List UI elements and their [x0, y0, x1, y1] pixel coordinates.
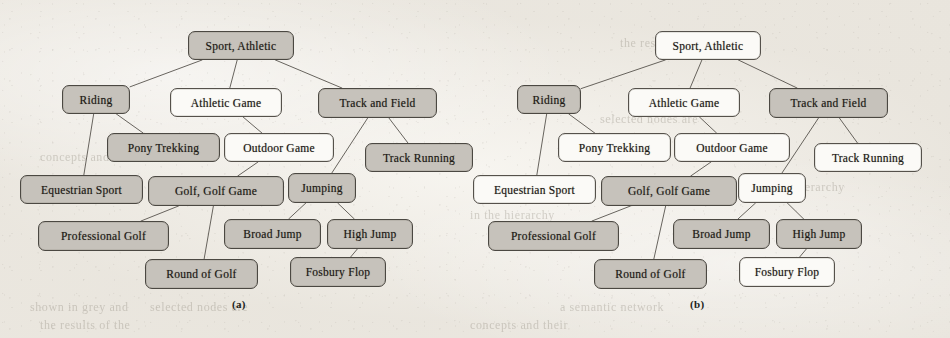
node-label: Pony Trekking [579, 142, 650, 154]
node-broad-panel-b: Broad Jump [673, 219, 770, 249]
edge-riding-to-equestrian [537, 114, 547, 175]
node-outdoor-panel-b: Outdoor Game [674, 133, 790, 162]
node-high-panel-a: High Jump [327, 219, 413, 249]
node-riding-panel-b: Riding [517, 85, 581, 114]
node-riding-panel-a: Riding [62, 85, 130, 114]
node-sport-panel-a: Sport, Athletic [188, 31, 294, 60]
node-outdoor-panel-a: Outdoor Game [224, 133, 334, 162]
node-label: Jumping [751, 182, 792, 194]
edge-outdoor-to-golf [691, 162, 711, 176]
node-label: Sport, Athletic [206, 40, 277, 52]
edge-sport-to-riding [130, 60, 202, 87]
edge-golf-to-round [654, 206, 666, 259]
edge-athgame-to-outdoor [243, 117, 262, 133]
edge-high-to-fosbury [351, 249, 358, 257]
node-label: Fosbury Flop [306, 266, 371, 278]
edge-trackfield-to-jumping [332, 118, 368, 173]
edge-sport-to-athgame [690, 60, 702, 88]
node-round-panel-b: Round of Golf [594, 259, 707, 289]
node-pony-panel-b: Pony Trekking [558, 133, 671, 162]
node-label: Track Running [383, 152, 455, 164]
edge-riding-to-pony [569, 114, 595, 133]
node-fosbury-panel-b: Fosbury Flop [739, 257, 835, 287]
node-pony-panel-a: Pony Trekking [107, 133, 220, 162]
node-label: Track Running [832, 152, 904, 164]
node-label: Golf, Golf Game [628, 185, 710, 197]
caption-cap-b: (b) [690, 298, 704, 310]
edge-sport-to-athgame [230, 60, 237, 88]
node-label: Broad Jump [692, 228, 750, 240]
node-label: Jumping [301, 182, 342, 194]
edge-sport-to-trackfield [275, 60, 341, 88]
edge-sport-to-trackfield [738, 60, 797, 88]
node-label: Sport, Athletic [673, 40, 744, 52]
node-label: Fosbury Flop [755, 266, 820, 278]
node-progolf-panel-a: Professional Golf [38, 221, 169, 251]
node-athgame-panel-a: Athletic Game [170, 88, 282, 117]
node-jumping-panel-a: Jumping [288, 173, 356, 203]
node-label: Track and Field [339, 97, 415, 109]
node-round-panel-a: Round of Golf [145, 259, 258, 289]
node-label: Riding [533, 94, 566, 106]
node-broad-panel-a: Broad Jump [224, 219, 321, 249]
node-label: Athletic Game [649, 97, 720, 109]
edge-golf-to-progolf [141, 206, 179, 221]
node-golf-panel-a: Golf, Golf Game [148, 176, 284, 206]
node-trackrun-panel-b: Track Running [814, 143, 922, 172]
node-high-panel-b: High Jump [776, 219, 862, 249]
caption-cap-a: (a) [232, 298, 246, 310]
node-label: Equestrian Sport [41, 184, 122, 196]
node-label: Riding [80, 94, 113, 106]
node-golf-panel-b: Golf, Golf Game [601, 176, 737, 206]
edge-athgame-to-outdoor [699, 117, 716, 133]
edge-riding-to-pony [116, 114, 143, 133]
edge-riding-to-equestrian [84, 114, 94, 175]
node-jumping-panel-b: Jumping [738, 173, 806, 203]
node-label: High Jump [792, 228, 845, 240]
node-label: Professional Golf [511, 230, 596, 242]
node-label: Golf, Golf Game [175, 185, 257, 197]
edge-golf-to-round [204, 206, 213, 259]
node-fosbury-panel-a: Fosbury Flop [290, 257, 386, 287]
node-equestrian-panel-a: Equestrian Sport [20, 175, 143, 204]
node-label: Pony Trekking [128, 142, 199, 154]
node-sport-panel-b: Sport, Athletic [655, 31, 761, 60]
node-label: Round of Golf [166, 268, 236, 280]
edge-trackfield-to-trackrun [839, 118, 857, 143]
edge-outdoor-to-golf [238, 162, 258, 176]
node-label: Outdoor Game [696, 142, 768, 154]
node-label: Professional Golf [61, 230, 146, 242]
node-label: Equestrian Sport [494, 184, 575, 196]
edge-jumping-to-high [787, 203, 803, 219]
edge-jumping-to-broad [738, 203, 756, 219]
node-label: High Jump [343, 228, 396, 240]
node-label: Broad Jump [243, 228, 301, 240]
edge-jumping-to-high [338, 203, 355, 219]
edge-sport-to-riding [581, 60, 665, 89]
figure-two-concept-hierarchies: Sport, AthleticRidingAthletic GameTrack … [0, 0, 950, 338]
edge-layer [0, 0, 950, 338]
edge-high-to-fosbury [800, 249, 807, 257]
edge-jumping-to-broad [289, 203, 306, 219]
node-label: Outdoor Game [243, 142, 315, 154]
node-equestrian-panel-b: Equestrian Sport [473, 175, 596, 204]
node-progolf-panel-b: Professional Golf [488, 221, 619, 251]
node-label: Athletic Game [191, 97, 262, 109]
edge-trackfield-to-trackrun [389, 118, 408, 143]
edge-golf-to-progolf [592, 206, 631, 221]
node-trackfield-panel-b: Track and Field [769, 88, 888, 118]
node-label: Round of Golf [615, 268, 685, 280]
node-athgame-panel-b: Athletic Game [628, 88, 740, 117]
node-label: Track and Field [790, 97, 866, 109]
node-trackrun-panel-a: Track Running [365, 143, 473, 172]
node-trackfield-panel-a: Track and Field [318, 88, 437, 118]
